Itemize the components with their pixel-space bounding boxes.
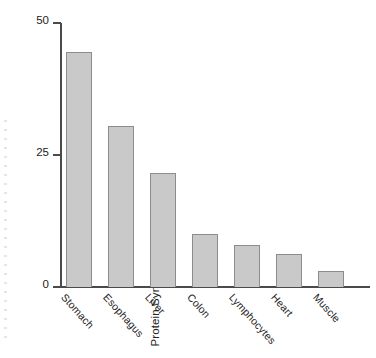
bar-liver	[150, 173, 176, 287]
bar-muscle	[318, 271, 344, 287]
bar-lymphocytes	[234, 245, 260, 287]
bar-chart-figure: Protein Synthesis (%/day) 50250 StomachE…	[0, 0, 376, 358]
bar-colon	[192, 234, 218, 287]
y-tick-label: 50	[36, 14, 49, 26]
y-tick-label: 0	[43, 278, 49, 290]
x-label-esophagus: Esophagus	[101, 291, 146, 339]
x-label-heart: Heart	[269, 291, 296, 319]
bar-stomach	[66, 52, 92, 287]
y-tick-25: 25	[53, 154, 61, 156]
x-label-stomach: Stomach	[59, 291, 97, 331]
bar-heart	[276, 254, 302, 287]
y-tick-label: 25	[36, 146, 49, 158]
x-label-muscle: Muscle	[311, 291, 343, 325]
y-tick-50: 50	[53, 22, 61, 24]
x-label-colon: Colon	[185, 291, 213, 320]
bar-esophagus	[108, 126, 134, 287]
y-tick-0: 0	[53, 286, 61, 288]
scan-edge-artifact	[4, 120, 7, 345]
